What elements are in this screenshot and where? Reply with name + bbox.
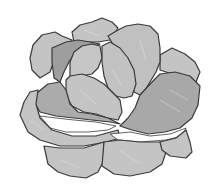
lettuce-illustration: Lettuce head illustration	[0, 0, 212, 190]
leaf-bottom-center	[102, 140, 166, 176]
lettuce-drawing	[0, 0, 212, 190]
leaf-bottom-left	[44, 142, 104, 178]
